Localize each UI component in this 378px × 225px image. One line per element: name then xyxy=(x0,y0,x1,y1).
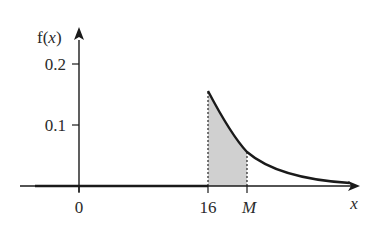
y-tick-label-0.2: 0.2 xyxy=(45,55,66,74)
chart: f(x) 0.2 0.1 0 16 M x xyxy=(0,0,378,225)
y-axis-arrow-icon xyxy=(74,27,84,40)
x-tick-label-0: 0 xyxy=(75,198,84,217)
y-tick-label-0.1: 0.1 xyxy=(45,116,66,135)
x-axis-label: x xyxy=(349,194,358,213)
shaded-area xyxy=(208,92,247,186)
x-tick-label-16: 16 xyxy=(200,198,217,217)
x-tick-label-m: M xyxy=(241,198,257,217)
y-axis-label: f(x) xyxy=(37,28,62,47)
